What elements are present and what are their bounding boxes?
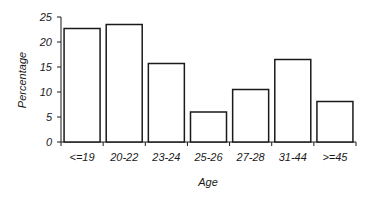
bar — [275, 60, 311, 143]
bar — [64, 29, 100, 143]
y-tick-label: 0 — [46, 136, 53, 148]
bar — [106, 25, 142, 143]
y-tick-label: 25 — [39, 11, 53, 23]
bar — [148, 64, 184, 143]
y-tick-label: 20 — [39, 36, 53, 48]
y-axis: 0510152025 — [39, 11, 61, 148]
bar-chart: 0510152025 <=1920-2223-2425-2627-2831-44… — [0, 0, 375, 200]
x-tick-label: 31-44 — [279, 151, 307, 163]
y-tick-label: 5 — [46, 111, 53, 123]
y-tick-label: 10 — [40, 86, 53, 98]
x-axis-title: Age — [197, 176, 218, 188]
x-tick-label: <=19 — [70, 151, 95, 163]
x-tick-label: 25-26 — [193, 151, 223, 163]
x-tick-label: 20-22 — [109, 151, 138, 163]
x-tick-label: 23-24 — [151, 151, 180, 163]
x-tick-label: >=45 — [322, 151, 348, 163]
bars — [64, 25, 353, 143]
bar — [317, 102, 353, 143]
x-tick-label: 27-28 — [236, 151, 266, 163]
bar — [191, 112, 227, 142]
x-axis: <=1920-2223-2425-2627-2831-44>=45 — [61, 142, 356, 163]
y-tick-label: 15 — [40, 61, 53, 73]
y-axis-title: Percentage — [16, 52, 28, 108]
bar — [233, 90, 269, 143]
